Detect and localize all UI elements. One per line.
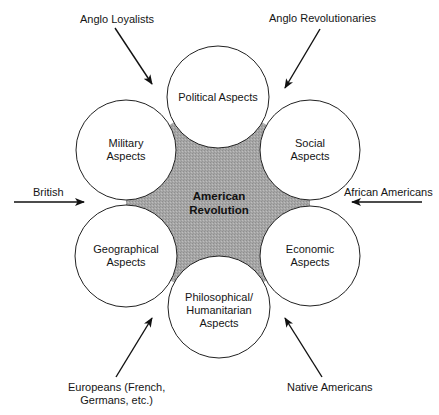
influence-anglo-revolutionaries-text: Anglo Revolutionaries	[269, 12, 376, 25]
arrow-europeans	[116, 318, 152, 377]
aspect-philosophical-line3: Aspects	[185, 317, 253, 330]
arrow-anglo-loyalists	[115, 28, 152, 84]
aspect-philosophical-line2: Humanitarian	[185, 304, 253, 317]
aspect-geographical-line2: Aspects	[93, 256, 158, 269]
aspect-economic-label: Economic Aspects	[286, 243, 334, 269]
aspect-political-line1: Political Aspects	[178, 91, 257, 104]
aspect-political-label: Political Aspects	[178, 91, 257, 104]
aspect-geographical-line1: Geographical	[93, 243, 158, 256]
aspect-military-line2: Aspects	[106, 150, 145, 163]
center-label-line1: American	[189, 189, 248, 203]
influence-anglo-loyalists-label: Anglo Loyalists	[80, 13, 154, 26]
aspect-philosophical-label: Philosophical/ Humanitarian Aspects	[185, 291, 253, 330]
aspect-philosophical-line1: Philosophical/	[185, 291, 253, 304]
influence-europeans-line2: Germans, etc.)	[68, 394, 165, 407]
influence-native-americans-text: Native Americans	[287, 381, 373, 394]
arrow-anglo-revolutionaries	[285, 29, 320, 88]
center-label-line2: Revolution	[189, 203, 248, 217]
influence-anglo-revolutionaries-label: Anglo Revolutionaries	[269, 12, 376, 25]
influence-british-label: British	[33, 186, 64, 199]
influence-europeans-label: Europeans (French, Germans, etc.)	[68, 381, 165, 407]
aspect-social-line2: Aspects	[290, 150, 329, 163]
aspect-social-line1: Social	[290, 137, 329, 150]
influence-native-americans-label: Native Americans	[287, 381, 373, 394]
influence-african-americans-text: African Americans	[344, 186, 433, 199]
arrow-native-americans	[285, 318, 322, 377]
aspect-military-line1: Military	[106, 137, 145, 150]
aspect-military-label: Military Aspects	[106, 137, 145, 163]
aspect-geographical-label: Geographical Aspects	[93, 243, 158, 269]
aspect-social-label: Social Aspects	[290, 137, 329, 163]
influence-african-americans-label: African Americans	[344, 186, 433, 199]
center-label: American Revolution	[189, 189, 248, 217]
aspect-economic-line1: Economic	[286, 243, 334, 256]
aspect-economic-line2: Aspects	[286, 256, 334, 269]
influence-anglo-loyalists-text: Anglo Loyalists	[80, 13, 154, 26]
influence-british-text: British	[33, 186, 64, 199]
influence-europeans-line1: Europeans (French,	[68, 381, 165, 394]
